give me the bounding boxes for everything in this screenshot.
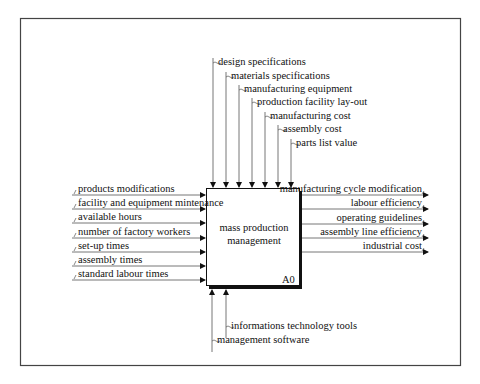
output-label-labour-efficiency: labour efficiency [351, 197, 422, 209]
input-label-set-up-times: set-up times [78, 240, 129, 252]
input-label-number-of-factory-workers: number of factory workers [78, 226, 190, 238]
control-label-design-specifications: design specifications [218, 56, 306, 68]
control-label-manufacturing-cost: manufacturing cost [270, 110, 351, 122]
activity-title-line2: management [207, 234, 301, 247]
activity-title-line1: mass production [207, 221, 301, 234]
input-label-products-modifications: products modifications [78, 183, 175, 195]
control-label-assembly-cost: assembly cost [283, 123, 342, 135]
output-label-manufacturing-cycle-modification: manufacturing cycle modification [280, 183, 422, 195]
input-label-standard-labour-times: standard labour times [78, 268, 168, 280]
output-label-operating-guidelines: operating guidelines [337, 212, 422, 224]
output-label-industrial-cost: industrial cost [363, 240, 422, 252]
control-label-production-facility-layout: production facility lay-out [257, 96, 367, 108]
input-label-available-hours: available hours [78, 211, 142, 223]
mechanism-label-it-tools: informations technology tools [231, 320, 357, 332]
input-label-assembly-times: assembly times [78, 254, 142, 266]
mechanism-label-management-software: management software [217, 334, 309, 346]
output-label-assembly-line-efficiency: assembly line efficiency [320, 226, 422, 238]
control-label-materials-specifications: materials specifications [231, 70, 330, 82]
activity-title: mass production management [207, 221, 301, 247]
input-label-facility-maintenance: facility and equipment mintenance [78, 197, 224, 209]
control-label-parts-list-value: parts list value [296, 137, 357, 149]
idef0-diagram: design specifications materials specific… [0, 0, 480, 384]
activity-node-id: A0 [282, 274, 295, 285]
control-label-manufacturing-equipment: manufacturing equipment [244, 83, 352, 95]
